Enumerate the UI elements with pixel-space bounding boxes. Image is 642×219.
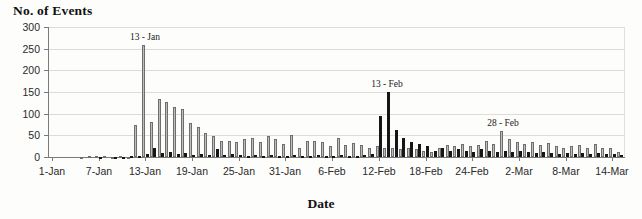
bar-black-events-12-Mar	[597, 153, 600, 157]
bar-black-events-23-Feb	[465, 151, 468, 158]
plot-area: 0501001502002503001-Jan7-Jan13-Jan19-Jan…	[0, 0, 642, 219]
bar-black-events-15-Jan	[161, 153, 164, 157]
bar-black-events-28-Jan	[262, 156, 265, 158]
bar-gray-events-7-Feb	[337, 138, 340, 158]
bar-black-events-28-Feb	[504, 151, 507, 158]
bar-black-events-9-Jan	[114, 157, 117, 159]
bar-black-events-11-Jan	[130, 156, 133, 158]
bar-black-events-10-Jan	[122, 157, 125, 159]
bar-black-events-17-Feb	[418, 144, 421, 157]
bar-black-events-13-Jan	[146, 154, 149, 157]
bar-black-events-15-Mar	[620, 155, 623, 157]
x-tick-label: 12-Feb	[356, 166, 402, 177]
bar-gray-events-15-Jan	[158, 99, 161, 158]
bar-black-events-20-Feb	[441, 148, 444, 157]
bar-gray-events-3-Feb	[306, 141, 309, 158]
bar-black-events-10-Mar	[581, 153, 584, 157]
bar-black-events-14-Jan	[153, 148, 156, 157]
bar-black-events-3-Mar	[527, 152, 530, 157]
bar-gray-events-20-Jan	[197, 127, 200, 157]
bar-black-events-24-Jan	[231, 154, 234, 157]
bar-black-events-14-Mar	[613, 154, 616, 158]
bar-black-events-12-Feb	[379, 116, 382, 157]
bar-black-events-13-Mar	[605, 154, 608, 158]
x-tick-mark	[239, 158, 240, 161]
bar-gray-events-5-Jan	[80, 157, 83, 159]
bar-black-events-8-Mar	[566, 153, 569, 157]
bar-black-events-23-Jan	[223, 155, 226, 157]
y-tick-label: 200	[6, 65, 40, 75]
gridline-150	[48, 92, 624, 93]
bar-black-events-16-Feb	[410, 142, 413, 157]
bar-black-events-19-Jan	[192, 155, 195, 157]
bar-black-events-4-Mar	[535, 153, 538, 157]
bar-black-events-16-Jan	[169, 152, 172, 157]
bar-black-events-5-Mar	[542, 152, 545, 157]
y-axis-line	[48, 27, 49, 158]
bar-gray-events-19-Jan	[189, 123, 192, 157]
bar-black-events-24-Feb	[472, 152, 475, 157]
gridline-100	[48, 114, 624, 115]
bar-black-events-1-Feb	[293, 155, 296, 157]
x-tick-mark	[472, 158, 473, 161]
bar-black-events-3-Feb	[309, 156, 312, 158]
bar-black-events-15-Feb	[402, 138, 405, 158]
bar-black-events-8-Feb	[348, 156, 351, 158]
bar-black-events-31-Jan	[286, 156, 289, 158]
y-tick-label: 300	[6, 22, 40, 32]
bar-black-events-2-Feb	[301, 156, 304, 158]
x-axis-line	[48, 157, 625, 158]
bar-black-events-11-Mar	[589, 154, 592, 158]
bar-black-events-5-Feb	[325, 156, 328, 158]
bar-gray-events-17-Jan	[173, 107, 176, 157]
bar-black-events-7-Feb	[340, 155, 343, 157]
bar-black-events-10-Feb	[363, 155, 366, 157]
y-tick-label: 150	[6, 87, 40, 97]
x-tick-label: 14-Mar	[589, 166, 635, 177]
bar-gray-events-12-Jan	[134, 125, 137, 158]
x-tick-label: 13-Jan	[122, 166, 168, 177]
x-tick-mark	[192, 158, 193, 161]
bar-black-events-13-Feb	[387, 92, 390, 157]
x-tick-label: 31-Jan	[262, 166, 308, 177]
bar-black-events-12-Jan	[138, 156, 141, 158]
x-tick-label: 1-Jan	[29, 166, 75, 177]
events-bar-chart: No. of Events 0501001502002503001-Jan7-J…	[0, 0, 642, 219]
plot-right-border	[624, 27, 625, 157]
bar-black-events-30-Jan	[278, 156, 281, 158]
bar-black-events-21-Jan	[208, 155, 211, 157]
bar-black-events-27-Feb	[496, 152, 499, 157]
bar-black-events-22-Jan	[216, 149, 219, 157]
gridline-300	[48, 27, 624, 28]
bar-black-events-25-Feb	[480, 149, 483, 157]
bar-black-events-18-Feb	[426, 146, 429, 157]
x-tick-label: 19-Jan	[169, 166, 215, 177]
bar-black-events-19-Feb	[434, 151, 437, 158]
x-tick-mark	[426, 158, 427, 161]
bar-black-events-26-Jan	[247, 156, 250, 158]
bar-black-events-6-Feb	[332, 156, 335, 158]
bar-black-events-20-Jan	[200, 154, 203, 158]
bar-black-events-26-Feb	[488, 151, 491, 158]
y-tick-label: 100	[6, 109, 40, 119]
x-tick-label: 2-Mar	[496, 166, 542, 177]
bar-gray-events-27-Jan	[251, 138, 254, 158]
bar-black-events-27-Jan	[254, 155, 257, 157]
bar-black-events-21-Feb	[449, 151, 452, 158]
bar-black-events-22-Feb	[457, 149, 460, 157]
bar-black-events-25-Jan	[239, 155, 242, 157]
bar-gray-events-6-Jan	[88, 156, 91, 158]
x-axis-title: Date	[0, 196, 642, 212]
bar-black-events-7-Mar	[558, 154, 561, 158]
bar-black-events-4-Feb	[317, 155, 320, 157]
x-tick-mark	[612, 158, 613, 161]
x-tick-mark	[145, 158, 146, 161]
x-tick-label: 18-Feb	[403, 166, 449, 177]
bar-black-events-1-Mar	[511, 152, 514, 157]
bar-black-events-9-Feb	[356, 156, 359, 158]
x-tick-mark	[566, 158, 567, 161]
annotation-13-Jan: 13 - Jan	[110, 32, 180, 42]
x-tick-label: 25-Jan	[216, 166, 262, 177]
bar-black-events-11-Feb	[371, 154, 374, 158]
bar-gray-events-1-Feb	[290, 135, 293, 157]
